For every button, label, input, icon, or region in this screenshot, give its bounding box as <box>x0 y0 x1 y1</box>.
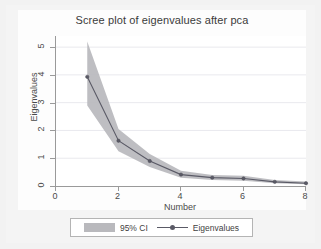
chart-legend: 95% CI Eigenvalues <box>70 218 253 237</box>
x-tick-label: 2 <box>110 191 126 201</box>
x-tick-label: 8 <box>297 191 313 201</box>
legend-label-eigenvalues: Eigenvalues <box>193 223 239 233</box>
y-tick-label: 4 <box>36 67 46 81</box>
x-axis-title: Number <box>55 202 305 212</box>
legend-entry-ci[interactable]: 95% CI <box>84 223 148 233</box>
y-tick-label: 5 <box>36 39 46 53</box>
x-tick-label: 0 <box>47 191 63 201</box>
screenshot-root: Scree plot of eigenvalues after pca Eige… <box>0 0 321 249</box>
x-tick-label: 6 <box>235 191 251 201</box>
chart-title: Scree plot of eigenvalues after pca <box>18 14 306 26</box>
y-tick-label: 2 <box>36 122 46 136</box>
legend-entry-eigenvalues[interactable]: Eigenvalues <box>157 223 239 233</box>
ci-band-swatch <box>84 223 115 232</box>
eigenvalues-series <box>56 36 306 186</box>
plot-area <box>55 36 306 187</box>
y-tick-label: 1 <box>36 150 46 164</box>
y-tick-label: 0 <box>36 178 46 192</box>
eigenvalues-line-swatch <box>157 223 188 232</box>
y-tick-label: 3 <box>36 95 46 109</box>
x-tick-label: 4 <box>172 191 188 201</box>
legend-label-ci: 95% CI <box>120 223 148 233</box>
